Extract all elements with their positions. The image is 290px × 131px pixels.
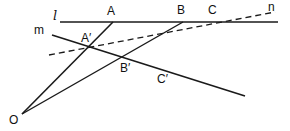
projective-diagram: l m n O A B C A′ B′ C′: [0, 0, 290, 131]
label-C: C: [208, 3, 217, 17]
label-n: n: [268, 0, 275, 14]
label-C-prime: C′: [157, 72, 169, 86]
label-B-prime: B′: [120, 61, 131, 75]
label-B: B: [177, 3, 185, 17]
label-O: O: [9, 113, 18, 127]
label-A-prime: A′: [81, 31, 92, 45]
label-m: m: [34, 23, 44, 37]
label-A: A: [107, 4, 115, 18]
label-l: l: [53, 8, 57, 23]
